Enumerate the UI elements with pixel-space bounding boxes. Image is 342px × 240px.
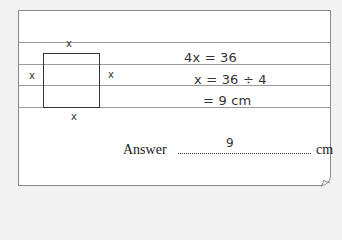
side-label-right: x	[108, 70, 114, 80]
side-label-top: x	[66, 39, 72, 49]
answer-unit: cm	[316, 142, 333, 158]
answer-dotted-line	[178, 153, 311, 154]
answer-value: 9	[226, 136, 234, 150]
page-curl-icon	[321, 180, 330, 189]
working-line-3: = 9 cm	[203, 94, 251, 108]
working-line-1: 4x = 36	[184, 51, 237, 65]
side-label-left: x	[29, 71, 35, 81]
answer-label: Answer	[123, 142, 167, 158]
working-line-2: x = 36 ÷ 4	[194, 73, 267, 87]
square-figure	[43, 53, 100, 108]
side-label-bottom: x	[71, 112, 77, 122]
